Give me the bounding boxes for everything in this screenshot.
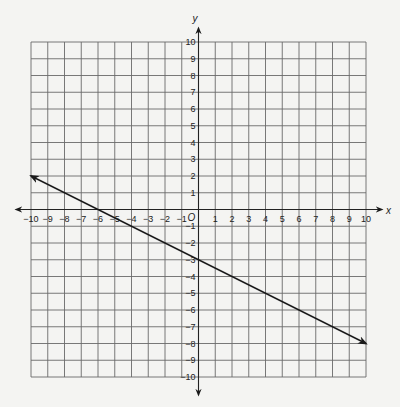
- y-tick-label: 4: [190, 138, 195, 148]
- x-tick-label: −4: [126, 214, 136, 224]
- x-tick-label: 2: [229, 214, 234, 224]
- x-tick-label: 5: [280, 214, 285, 224]
- x-tick-label: 3: [246, 214, 251, 224]
- x-tick-labels: −10−9−8−7−6−5−4−3−2−112345678910: [23, 214, 371, 224]
- x-tick-label: 4: [263, 214, 268, 224]
- x-tick-label: 1: [213, 214, 218, 224]
- x-tick-label: −9: [43, 214, 53, 224]
- y-tick-label: −1: [185, 221, 195, 231]
- y-tick-label: −10: [180, 372, 195, 382]
- x-tick-label: 6: [296, 214, 301, 224]
- y-tick-label: 5: [190, 121, 195, 131]
- x-tick-label: −2: [160, 214, 170, 224]
- y-tick-label: 9: [190, 54, 195, 64]
- y-tick-label: 3: [190, 154, 195, 164]
- y-tick-label: 1: [190, 188, 195, 198]
- x-tick-label: −7: [76, 214, 86, 224]
- x-tick-label: 8: [330, 214, 335, 224]
- y-tick-label: −5: [185, 288, 195, 298]
- x-tick-label: 9: [347, 214, 352, 224]
- y-tick-label: −6: [185, 305, 195, 315]
- y-tick-label: 2: [190, 171, 195, 181]
- y-tick-label: 6: [190, 104, 195, 114]
- y-tick-label: −2: [185, 238, 195, 248]
- y-tick-label: 10: [185, 37, 195, 47]
- y-tick-label: −8: [185, 339, 195, 349]
- y-tick-label: −9: [185, 355, 195, 365]
- y-axis-label: y: [192, 13, 199, 24]
- x-tick-label: −8: [59, 214, 69, 224]
- y-tick-label: −7: [185, 322, 195, 332]
- y-tick-label: 8: [190, 71, 195, 81]
- x-axis-label: x: [385, 205, 392, 216]
- y-tick-label: −4: [185, 272, 195, 282]
- y-tick-label: 7: [190, 87, 195, 97]
- x-tick-label: −10: [23, 214, 38, 224]
- x-tick-label: −6: [93, 214, 103, 224]
- x-tick-label: −3: [143, 214, 153, 224]
- axes: x y O: [16, 13, 392, 395]
- x-tick-label: 10: [361, 214, 371, 224]
- coordinate-plane: x y O −10−9−8−7−6−5−4−3−2−112345678910 −…: [0, 0, 400, 407]
- x-tick-label: 7: [313, 214, 318, 224]
